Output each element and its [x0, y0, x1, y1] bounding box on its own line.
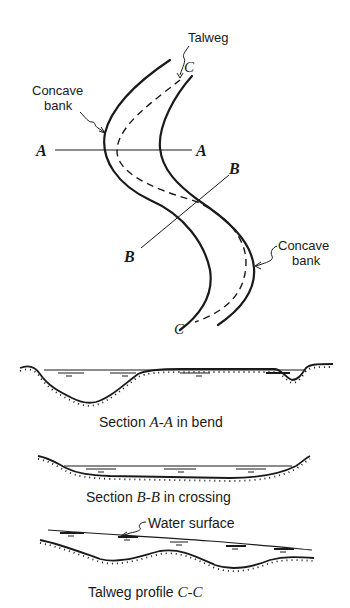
river-meander-diagram: A A B B C C Talweg Concave bank Concave … — [0, 0, 350, 608]
profile-water-marks — [60, 533, 294, 552]
section-b-b-water-marks — [86, 469, 266, 472]
profile-water-surface — [48, 530, 312, 550]
concave-bank-lower-label-line1: Concave — [278, 238, 329, 253]
concave-bank-upper-leader — [80, 112, 104, 132]
concave-bank-upper-label-line1: Concave — [32, 83, 83, 98]
section-a-a-water-marks — [58, 373, 290, 376]
water-surface-label: Water surface — [148, 515, 235, 531]
concave-bank-lower-label-line2: bank — [292, 253, 321, 268]
label-b-upper: B — [228, 160, 240, 177]
section-a-a: Section A-A in bend — [20, 364, 333, 430]
talweg-dashed-line — [117, 80, 246, 322]
label-c-lower: C — [174, 321, 185, 337]
label-b-lower: B — [123, 248, 135, 265]
section-b-b-caption: Section B-B in crossing — [86, 489, 231, 505]
label-c-upper: C — [184, 59, 195, 75]
section-b-b-ground — [38, 456, 310, 478]
left-bank-line — [104, 60, 211, 330]
profile-ground — [40, 540, 314, 568]
plan-view: A A B B C C Talweg Concave bank Concave … — [32, 30, 329, 337]
water-surface-leader — [122, 522, 146, 536]
talweg-profile-c-c: Water surface Talweg profile C-C — [40, 515, 314, 600]
section-a-a-caption: Section A-A in bend — [99, 414, 223, 430]
talweg-profile-caption: Talweg profile C-C — [88, 584, 204, 600]
section-b-b: Section B-B in crossing — [38, 456, 310, 505]
label-a-right: A — [195, 142, 207, 159]
label-a-left: A — [35, 142, 47, 159]
talweg-label: Talweg — [188, 30, 228, 45]
profile-ground-hatch — [40, 543, 314, 571]
concave-bank-upper-arrowhead-icon — [99, 127, 105, 133]
concave-bank-upper-label-line2: bank — [44, 98, 73, 113]
